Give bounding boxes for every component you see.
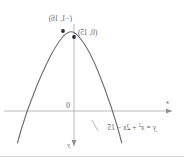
equation-label: y = x2 + 2x − 15 bbox=[107, 122, 157, 132]
vertex-point-marker bbox=[61, 29, 65, 33]
parabola-figure: (−1, 16) (0, 15) 0 x y y = x2 + 2x − 15 bbox=[0, 0, 184, 162]
y-intercept-coordinate-label: (0, 15) bbox=[77, 29, 97, 37]
y-intercept-point-marker bbox=[72, 35, 76, 39]
x-axis-arrow-icon bbox=[166, 109, 172, 114]
mirrored-plot-wrapper: (−1, 16) (0, 15) 0 x y y = x2 + 2x − 15 bbox=[0, 0, 184, 162]
graph-canvas: (−1, 16) (0, 15) 0 x y y = x2 + 2x − 15 bbox=[0, 0, 184, 162]
x-axis-label: x bbox=[165, 98, 170, 106]
equation-leader-line bbox=[92, 120, 98, 131]
equation-label-head: y = x bbox=[140, 124, 157, 132]
y-axis-label: y bbox=[66, 141, 71, 149]
equation-label-tail: + 2x − 15 bbox=[107, 124, 138, 132]
parabola-curve bbox=[18, 32, 122, 143]
vertex-coordinate-label: (−1, 16) bbox=[48, 15, 72, 23]
bottom-divider bbox=[0, 156, 184, 157]
equation-label-exponent: 2 bbox=[138, 122, 141, 128]
y-axis-arrow-icon bbox=[72, 140, 77, 146]
origin-label: 0 bbox=[66, 101, 70, 110]
